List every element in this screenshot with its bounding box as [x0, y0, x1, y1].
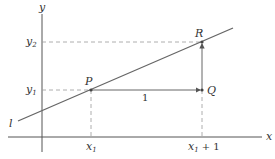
- point-q-label: Q: [207, 84, 216, 97]
- line-label: l: [9, 117, 13, 130]
- point-r-label: R: [194, 27, 203, 40]
- x1-tick-label: x1: [86, 140, 97, 154]
- y-axis-label: y: [38, 1, 46, 14]
- point-p: [89, 88, 92, 91]
- diagram-svg: y x l P Q R 1 y2 y1 x1 x1+ 1: [0, 0, 275, 159]
- x-axis-label: x: [266, 130, 273, 143]
- y1-tick-label: y1: [25, 83, 37, 97]
- diagram-canvas: y x l P Q R 1 y2 y1 x1 x1+ 1: [0, 0, 275, 159]
- run-label: 1: [142, 92, 148, 103]
- y2-tick-label: y2: [25, 35, 37, 49]
- point-p-label: P: [84, 75, 93, 88]
- point-q: [200, 88, 203, 91]
- x1-plus-1-tick-label: x1+ 1: [188, 140, 220, 154]
- point-r: [200, 40, 203, 43]
